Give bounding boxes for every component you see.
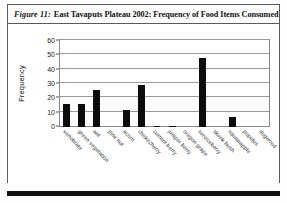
bar [199, 58, 206, 127]
x-axis-label-slot: serviceberry [195, 128, 210, 182]
x-axis-label-slot: green vegetation [74, 128, 89, 182]
bar [138, 85, 145, 127]
page-bottom-rule [7, 191, 280, 196]
bars-layer [59, 39, 270, 127]
bar-slot [134, 39, 149, 127]
x-axis-label-slot: vertebrate [59, 128, 74, 182]
bar [78, 104, 85, 127]
y-axis-tick-label: 10 [47, 108, 55, 115]
bar [169, 126, 176, 127]
figure-caption: Figure 11: East Tavaputs Plateau 2002: F… [8, 5, 279, 24]
bar-slot [255, 39, 270, 127]
y-axis-tick-label: 50 [47, 51, 55, 58]
figure-number-label: Figure 11: [14, 10, 51, 19]
x-axis-label-slot: pine nut [104, 128, 119, 182]
y-axis-tick-label: 20 [47, 94, 55, 101]
bar-chart: Frequency 0102030405060 vertebrategreen … [8, 24, 279, 183]
x-axis-label-slot: skunk bush [210, 128, 225, 182]
x-axis-label-slot: currant berry [149, 128, 164, 182]
y-axis: 0102030405060 [8, 39, 59, 127]
bar-slot [225, 39, 240, 127]
bar-slot [149, 39, 164, 127]
y-axis-tick-label: 60 [47, 37, 55, 44]
x-axis-tick-label: dogwood [257, 128, 277, 149]
bar-slot [59, 39, 74, 127]
bar-slot [119, 39, 134, 127]
bar-slot [240, 39, 255, 127]
bar-slot [195, 39, 210, 127]
x-axis-label-slot: dogwood [255, 128, 270, 182]
bar [63, 104, 70, 127]
bar-slot [104, 39, 119, 127]
bar [229, 117, 236, 127]
x-axis-tick-label: ant [92, 128, 102, 138]
figure-caption-text: East Tavaputs Plateau 2002: Frequency of… [54, 10, 279, 19]
x-axis-label-slot: acorn [119, 128, 134, 182]
x-axis-label-slot: juniper berry [165, 128, 180, 182]
figure-container: Figure 11: East Tavaputs Plateau 2002: F… [7, 4, 280, 183]
x-axis-label-slot: populus [240, 128, 255, 182]
x-axis-label-slot: ant [89, 128, 104, 182]
bar [154, 126, 161, 127]
x-axis-labels: vertebrategreen vegetationantpine nutaco… [59, 128, 270, 182]
x-axis-label-slot: oregon grape [180, 128, 195, 182]
bar-slot [89, 39, 104, 127]
x-axis-label-slot: chokecherry [134, 128, 149, 182]
figure-page: Figure 11: East Tavaputs Plateau 2002: F… [0, 0, 287, 203]
bar [93, 90, 100, 127]
y-axis-tick-label: 0 [51, 123, 55, 130]
bar [123, 110, 130, 127]
y-axis-tick-label: 40 [47, 65, 55, 72]
bar-slot [165, 39, 180, 127]
y-axis-tick-label: 30 [47, 80, 55, 87]
bar-slot [74, 39, 89, 127]
bar-slot [210, 39, 225, 127]
bar-slot [180, 39, 195, 127]
x-axis-label-slot: squawapple [225, 128, 240, 182]
